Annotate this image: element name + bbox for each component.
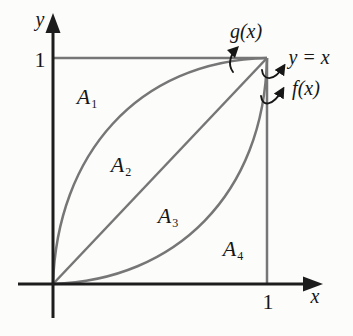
g-curve-label: g(x) <box>230 21 262 41</box>
unit-square-area-diagram: y x 1 1 g(x) y = x f(x) A1 A2 A3 A4 <box>0 0 353 336</box>
region-a2-base: A <box>111 152 124 177</box>
y-axis-tick-1: 1 <box>35 49 46 71</box>
region-label-a4: A4 <box>223 238 243 262</box>
y-axis-label: y <box>36 9 45 29</box>
region-a1-subscript: 1 <box>91 97 97 111</box>
region-a3-subscript: 3 <box>172 216 178 230</box>
region-label-a3: A3 <box>158 205 178 229</box>
x-axis-tick-1: 1 <box>263 291 274 313</box>
region-a3-base: A <box>158 203 171 228</box>
region-label-a2: A2 <box>111 154 131 178</box>
f-curve-label: f(x) <box>292 78 320 98</box>
region-label-a1: A1 <box>77 86 97 110</box>
x-axis-label: x <box>311 286 320 306</box>
y-axis-arrowhead-icon <box>46 13 61 33</box>
region-a1-base: A <box>77 84 90 109</box>
region-a4-base: A <box>223 236 236 261</box>
identity-line-label: y = x <box>288 47 329 67</box>
region-a4-subscript: 4 <box>237 249 243 263</box>
region-a2-subscript: 2 <box>125 165 131 179</box>
